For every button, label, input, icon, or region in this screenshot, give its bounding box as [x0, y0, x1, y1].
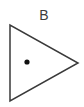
- figure-container: B: [0, 0, 84, 107]
- triangle-shape: [10, 25, 78, 101]
- shape-label-b: B: [0, 7, 84, 23]
- interior-point-dot: [24, 59, 29, 64]
- shape-label-text: B: [39, 7, 48, 23]
